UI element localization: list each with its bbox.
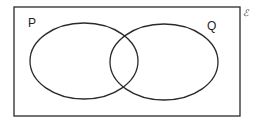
universal-set-label: ℰ xyxy=(243,9,248,18)
set-p-label: P xyxy=(28,17,36,29)
venn-diagram xyxy=(0,0,259,120)
set-p-ellipse xyxy=(30,23,138,99)
set-q-ellipse xyxy=(110,24,218,100)
set-q-label: Q xyxy=(207,20,216,32)
